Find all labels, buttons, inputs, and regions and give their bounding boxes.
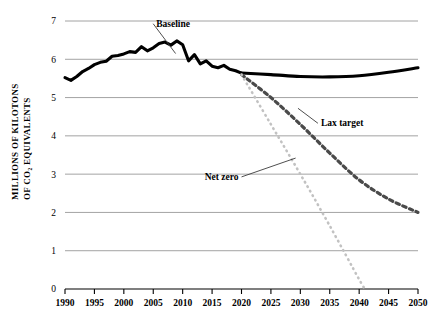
x-tick-label-2000: 2000: [114, 298, 133, 308]
y-tick-label-4: 4: [51, 131, 56, 141]
annotation-label-lax-target: Lax target: [321, 118, 364, 128]
series-path-net-zero: [242, 75, 366, 289]
series-path-lax-target: [242, 75, 419, 213]
y-axis-title-line-2: OF CO₂ EQUIVALENTS: [22, 97, 32, 200]
y-tick-label-2: 2: [51, 208, 56, 218]
x-tick-label-2005: 2005: [144, 298, 163, 308]
y-axis-title: MILLIONS OF KILOTONS OF CO₂ EQUIVALENTS: [10, 83, 32, 200]
y-tick-label-1: 1: [51, 246, 56, 256]
x-axis: [65, 289, 418, 294]
x-tick-label-1995: 1995: [85, 298, 104, 308]
y-axis-title-line-1: MILLIONS OF KILOTONS: [10, 83, 20, 200]
chart-container: 01234567 1990199520002005201020152020202…: [0, 0, 440, 319]
y-tick-label-7: 7: [51, 16, 56, 26]
y-tick-label-5: 5: [51, 93, 56, 103]
x-tick-label-2015: 2015: [203, 298, 222, 308]
x-tick-label-2025: 2025: [261, 298, 280, 308]
x-tick-label-1990: 1990: [56, 298, 75, 308]
emissions-line-chart: 01234567 1990199520002005201020152020202…: [0, 0, 440, 319]
annotation-label-net-zero: Net zero: [205, 172, 239, 182]
x-tick-label-2010: 2010: [173, 298, 192, 308]
gridlines: [65, 21, 418, 289]
leader-line-lax-target: [298, 108, 318, 123]
series-path-baseline-history: [65, 41, 242, 80]
x-tick-label-2040: 2040: [350, 298, 369, 308]
annotation-label-baseline: Baseline: [156, 19, 190, 29]
series-path-baseline-projection: [242, 68, 419, 77]
x-tick-label-2050: 2050: [409, 298, 428, 308]
y-tick-label-6: 6: [51, 55, 56, 65]
y-tick-label-0: 0: [51, 284, 56, 294]
data-series: [65, 41, 418, 289]
x-tick-label-2030: 2030: [291, 298, 310, 308]
y-axis-tick-labels: 01234567: [51, 16, 56, 294]
x-tick-label-2035: 2035: [320, 298, 339, 308]
x-axis-tick-labels: 1990199520002005201020152020202520302035…: [56, 298, 428, 308]
x-tick-label-2020: 2020: [232, 298, 251, 308]
y-tick-label-3: 3: [51, 170, 56, 180]
x-tick-label-2045: 2045: [379, 298, 398, 308]
